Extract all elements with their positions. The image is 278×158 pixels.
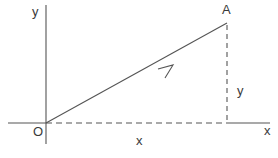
point-A-label: A bbox=[222, 2, 231, 17]
origin-label: O bbox=[33, 124, 43, 139]
y-component-label: y bbox=[237, 83, 244, 98]
x-axis-label: x bbox=[264, 123, 271, 138]
vector-diagram: y A y O x x bbox=[0, 0, 278, 158]
y-axis-label: y bbox=[32, 4, 39, 19]
vector-arrowhead-icon bbox=[158, 65, 173, 78]
vector-OA bbox=[46, 23, 227, 123]
x-component-label: x bbox=[136, 133, 143, 148]
